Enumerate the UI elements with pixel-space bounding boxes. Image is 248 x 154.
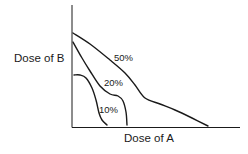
curve-50-percent xyxy=(73,33,208,126)
curve-label-50: 50% xyxy=(114,52,133,63)
isobologram-plot xyxy=(0,0,248,154)
x-axis-label: Dose of A xyxy=(124,132,174,144)
y-axis-label: Dose of B xyxy=(14,52,65,64)
curve-10-percent xyxy=(74,75,107,125)
curve-label-10: 10% xyxy=(99,104,118,115)
isobologram-figure: Dose of B Dose of A 50% 20% 10% xyxy=(0,0,248,154)
curve-label-20: 20% xyxy=(104,77,123,88)
